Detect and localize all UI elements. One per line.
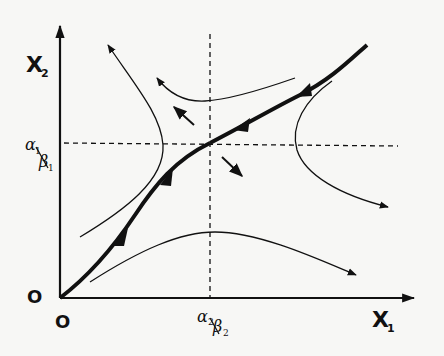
equilibrium-x-label: α 2 β 2 <box>197 307 229 338</box>
x-axis-label-sub: 1 <box>387 322 395 335</box>
y-axis-label: X 2 <box>26 52 49 80</box>
origin-x-label: O <box>55 311 70 332</box>
axes <box>60 26 414 298</box>
phase-plane-diagram: X 2 X 1 O O α 1 β 1 α 2 β 2 <box>0 0 444 356</box>
beta2: β <box>212 317 222 336</box>
y-axis-label-sub: 2 <box>41 67 49 80</box>
horizontal-dashed-guide <box>64 143 398 146</box>
trajectories <box>80 45 388 282</box>
separatrix-arrow-3 <box>233 118 250 132</box>
x-axis-label: X 1 <box>372 307 395 335</box>
separatrix-lower <box>60 143 210 298</box>
beta1: β <box>38 152 48 171</box>
equilibrium-y-label: α 1 β 1 <box>25 135 54 173</box>
beta1-sub: 1 <box>48 163 54 173</box>
arrow-southeast <box>222 157 242 176</box>
unstable-direction-arrows <box>174 107 242 176</box>
separatrix-upper <box>210 45 367 143</box>
trajectory-upper <box>157 78 295 101</box>
origin-y-label: O <box>27 286 42 307</box>
beta2-sub: 2 <box>223 328 229 338</box>
trajectory-right <box>295 81 388 207</box>
separatrix-arrow-4 <box>296 83 312 97</box>
alpha2: α <box>197 307 208 326</box>
trajectory-upper-left <box>80 45 163 237</box>
trajectory-lower <box>90 232 356 282</box>
arrow-northwest <box>174 107 194 125</box>
